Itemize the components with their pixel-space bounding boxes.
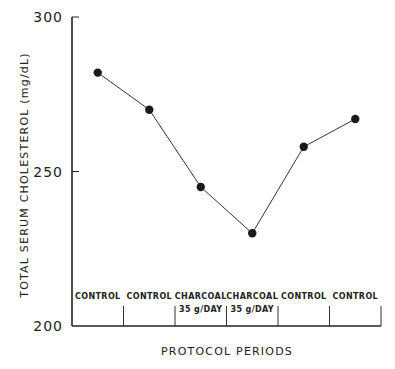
- series-line-segment: [201, 187, 253, 233]
- y-axis-label: TOTAL SERUM CHOLESTEROL (mg/dL): [18, 52, 31, 299]
- data-point: [248, 229, 256, 237]
- series-line-segment: [98, 73, 150, 110]
- period-sublabel: 35 g/DAY: [230, 305, 274, 314]
- data-series: [94, 68, 360, 237]
- cholesterol-chart: 200250300 CONTROLCONTROLCHARCOAL35 g/DAY…: [0, 0, 395, 369]
- period-sublabel: 35 g/DAY: [179, 305, 223, 314]
- series-line-segment: [304, 119, 356, 147]
- data-point: [197, 183, 205, 191]
- y-tick-label: 200: [33, 318, 63, 334]
- period-label: CONTROL: [332, 292, 378, 301]
- series-line-segment: [252, 147, 304, 234]
- period-label: CHARCOAL: [226, 292, 278, 301]
- period-label: CONTROL: [281, 292, 327, 301]
- period-label: CONTROL: [75, 292, 121, 301]
- period-label: CHARCOAL: [175, 292, 227, 301]
- y-tick-label: 250: [33, 164, 63, 180]
- data-point: [300, 143, 308, 151]
- data-point: [94, 68, 102, 76]
- data-point: [145, 106, 153, 114]
- axes: [72, 17, 381, 326]
- data-point: [351, 115, 359, 123]
- x-axis-label: PROTOCOL PERIODS: [161, 345, 293, 358]
- series-line-segment: [149, 110, 201, 187]
- period-label: CONTROL: [126, 292, 172, 301]
- y-tick-label: 300: [33, 9, 63, 25]
